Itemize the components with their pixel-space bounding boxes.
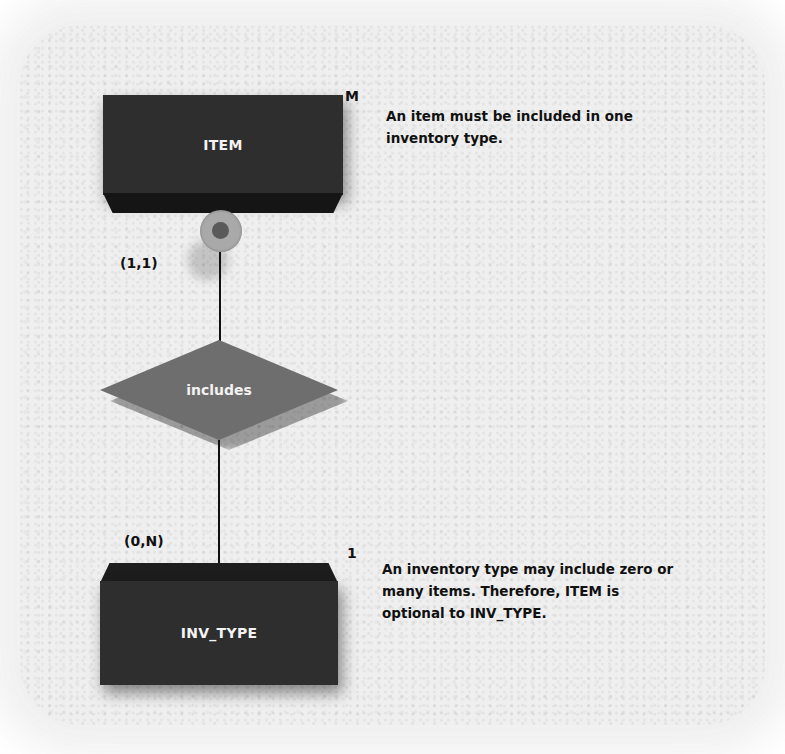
entity-item-label: ITEM [203, 137, 242, 153]
entity-item: ITEM [103, 95, 343, 195]
connectivity-invtype: (0,N) [124, 533, 164, 549]
entity-invtype-label: INV_TYPE [181, 625, 258, 641]
entity-invtype: INV_TYPE [100, 581, 338, 685]
relationship-label: includes [186, 382, 252, 398]
cardinality-item: M [345, 88, 359, 104]
note-bottom: An inventory type may include zero or ma… [382, 558, 682, 624]
connectivity-item: (1,1) [120, 255, 158, 271]
optional-circle-icon [200, 210, 242, 252]
note-top: An item must be included in one inventor… [386, 105, 661, 149]
entity-invtype-bevel [100, 563, 338, 583]
connector-item-includes [219, 252, 221, 342]
cardinality-invtype: 1 [347, 545, 357, 561]
connector-includes-invtype [218, 440, 220, 565]
